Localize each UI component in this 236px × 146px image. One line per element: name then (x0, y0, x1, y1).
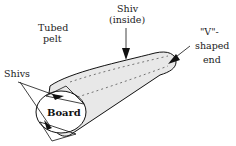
pelt-stretching-diagram: Tubed pelt Shiv (inside) "V"- shaped end… (0, 0, 236, 146)
label-shiv-inside-2: (inside) (109, 14, 145, 25)
shiv-inside-arrowhead (122, 48, 130, 60)
label-board: Board (47, 107, 81, 118)
label-tubed-pelt-2: pelt (43, 33, 62, 44)
label-v-end-2: shaped (195, 40, 229, 51)
label-shivs: Shivs (4, 68, 30, 79)
label-tubed-pelt-1: Tubed (38, 22, 68, 33)
label-v-end-3: end (203, 54, 221, 65)
label-shiv-inside-1: Shiv (117, 3, 139, 14)
label-v-end-1: "V"- (200, 26, 219, 37)
